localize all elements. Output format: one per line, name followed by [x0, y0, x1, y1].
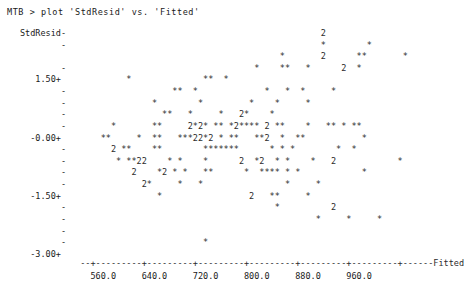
y-axis-tick-14: -1.50+ [4, 191, 66, 203]
plot-data-row: ** * * * * * [70, 86, 438, 98]
y-axis-tick-17: - [4, 226, 66, 238]
plot-data-row: * ** 2*2* ** *2**** 2 ** * ** * ** [70, 121, 444, 133]
plot-data-row: 2* * * * * [70, 179, 433, 191]
y-axis-tick-5: - [4, 86, 66, 98]
plot-data-row: * 2 ** * [70, 191, 438, 203]
y-axis-tick-7: - [4, 109, 66, 121]
plot-data-row: * 2 ** * [70, 51, 438, 63]
plot-data-row: * * * [70, 214, 438, 226]
y-axis-tick-15: - [4, 202, 66, 214]
y-axis-tick-6: - [4, 98, 66, 110]
y-axis-tick-9: -0.00+ [4, 133, 66, 145]
ascii-scatter-plot: StdResid- 2 - * * [4, 22, 474, 284]
plot-data-row: * **22 * * * 2 *2 * * * 2 * [70, 156, 438, 168]
plot-data-row: 2 ** ** ******* * * * * * [70, 144, 438, 156]
minitab-session-window: MTB > plot 'StdResid' vs. 'Fitted' StdRe… [0, 0, 474, 290]
plot-data-row: ** * ** ***22*2 * ** **2 * ** * [70, 133, 444, 145]
plot-data-row: * 2 [70, 202, 438, 214]
y-axis-tick-19: -3.00+ [4, 249, 66, 261]
plot-data-row: ** * * 2* * [70, 109, 444, 121]
y-axis-tick-12: - [4, 167, 66, 179]
y-axis-tick-2 [4, 51, 66, 63]
plot-data-row: * [70, 237, 438, 249]
y-axis-tick-8: - [4, 121, 66, 133]
y-axis-tick-10: - [4, 144, 66, 156]
plot-data-row: 2 *2 * * ** * **** * * * [70, 167, 438, 179]
y-axis-tick-13: - [4, 179, 66, 191]
plot-data-row: * ** * 2 * [70, 63, 438, 75]
command-line: MTB > plot 'StdResid' vs. 'Fitted' [4, 6, 474, 18]
plot-data-row [70, 226, 438, 238]
y-axis-tick-1: - [4, 40, 66, 52]
y-axis-tick-16: - [4, 214, 66, 226]
plot-data-row: 2 [70, 28, 438, 40]
y-axis-tick-4: 1.50+ [4, 74, 66, 86]
y-axis-tick-0: StdResid- [4, 28, 66, 40]
x-axis-line-host: --+---------+---------+---------+-------… [70, 258, 464, 270]
y-axis-tick-18: - [4, 237, 66, 249]
x-tick-labels: 560.0 640.0 720.0 800.0 880.0 960.0 [70, 271, 372, 283]
plot-data-row: * ** * [70, 74, 438, 86]
y-axis-tick-11: - [4, 156, 66, 168]
plot-data-row: * * [70, 40, 438, 52]
plot-data-row: * * * * * [70, 98, 438, 110]
y-axis-tick-3: - [4, 63, 66, 75]
